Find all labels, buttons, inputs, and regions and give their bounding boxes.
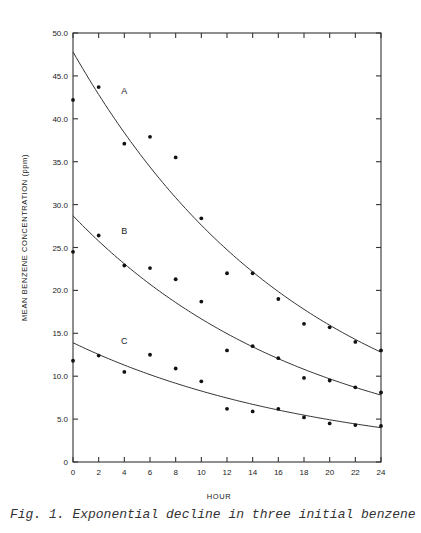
data-point-b bbox=[71, 250, 75, 254]
data-point-b bbox=[276, 356, 280, 360]
y-tick-label: 50.0 bbox=[52, 29, 68, 38]
data-point-c bbox=[328, 421, 332, 425]
fit-curve-a bbox=[73, 52, 381, 352]
data-point-a bbox=[225, 271, 229, 275]
data-point-c bbox=[199, 379, 203, 383]
y-tick-label: 45.0 bbox=[52, 72, 68, 81]
data-point-a bbox=[353, 340, 357, 344]
x-tick-label: 4 bbox=[122, 468, 127, 477]
data-point-a bbox=[302, 322, 306, 326]
y-tick-label: 10.0 bbox=[52, 372, 68, 381]
data-point-c bbox=[225, 407, 229, 411]
data-point-c bbox=[122, 370, 126, 374]
fit-curve-c bbox=[73, 343, 381, 428]
x-tick-label: 14 bbox=[248, 468, 257, 477]
data-point-b bbox=[379, 391, 383, 395]
data-point-a bbox=[328, 325, 332, 329]
data-point-a bbox=[122, 142, 126, 146]
data-point-a bbox=[71, 98, 75, 102]
data-point-c bbox=[174, 367, 178, 371]
x-tick-label: 18 bbox=[300, 468, 309, 477]
data-points bbox=[71, 85, 383, 428]
data-point-a bbox=[276, 297, 280, 301]
data-point-a bbox=[379, 349, 383, 353]
data-point-b bbox=[148, 266, 152, 270]
y-tick-label: 25.0 bbox=[52, 244, 68, 253]
y-tick-label: 20.0 bbox=[52, 286, 68, 295]
data-point-c bbox=[302, 415, 306, 419]
y-tick-label: 5.0 bbox=[57, 415, 69, 424]
x-tick-label: 16 bbox=[274, 468, 283, 477]
data-point-a bbox=[148, 135, 152, 139]
y-tick-label: 0 bbox=[64, 458, 69, 467]
data-point-a bbox=[251, 271, 255, 275]
data-point-c bbox=[276, 407, 280, 411]
ticks: 02468101214161820222405.010.015.020.025.… bbox=[52, 29, 386, 477]
data-point-c bbox=[71, 359, 75, 363]
x-tick-label: 6 bbox=[148, 468, 153, 477]
x-tick-label: 0 bbox=[71, 468, 76, 477]
data-point-a bbox=[199, 216, 203, 220]
x-tick-label: 24 bbox=[377, 468, 386, 477]
data-point-a bbox=[97, 85, 101, 89]
x-axis-title: HOUR bbox=[207, 492, 231, 501]
x-tick-label: 12 bbox=[223, 468, 232, 477]
data-point-b bbox=[174, 277, 178, 281]
x-tick-label: 22 bbox=[351, 468, 360, 477]
fit-curves bbox=[73, 52, 381, 428]
data-point-b bbox=[97, 234, 101, 238]
data-point-b bbox=[251, 344, 255, 348]
data-point-c bbox=[379, 424, 383, 428]
chart: 02468101214161820222405.010.015.020.025.… bbox=[0, 0, 421, 533]
y-tick-label: 40.0 bbox=[52, 115, 68, 124]
data-point-c bbox=[251, 409, 255, 413]
y-tick-label: 15.0 bbox=[52, 329, 68, 338]
x-tick-label: 8 bbox=[173, 468, 178, 477]
x-tick-label: 10 bbox=[197, 468, 206, 477]
data-point-b bbox=[199, 300, 203, 304]
data-point-a bbox=[174, 156, 178, 160]
data-point-c bbox=[97, 354, 101, 358]
x-tick-label: 2 bbox=[96, 468, 101, 477]
data-point-b bbox=[225, 349, 229, 353]
curve-label-b: B bbox=[121, 226, 127, 236]
figure-caption: Fig. 1. Exponential decline in three ini… bbox=[10, 507, 416, 522]
y-tick-label: 30.0 bbox=[52, 201, 68, 210]
fit-curve-b bbox=[73, 216, 381, 395]
curve-label-a: A bbox=[121, 86, 127, 96]
y-axis-title: MEAN BENZENE CONCENTRATION (ppm) bbox=[20, 154, 29, 321]
data-point-c bbox=[353, 423, 357, 427]
data-point-b bbox=[328, 379, 332, 383]
data-point-b bbox=[122, 264, 126, 268]
data-point-b bbox=[302, 376, 306, 380]
curve-label-c: C bbox=[121, 336, 128, 346]
data-point-b bbox=[353, 385, 357, 389]
x-tick-label: 20 bbox=[325, 468, 334, 477]
y-tick-label: 35.0 bbox=[52, 158, 68, 167]
data-point-c bbox=[148, 353, 152, 357]
